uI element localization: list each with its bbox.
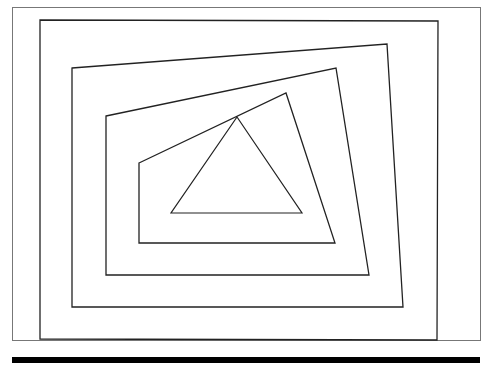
bottom-bar xyxy=(12,357,480,363)
nested-polygons-diagram xyxy=(0,0,493,366)
